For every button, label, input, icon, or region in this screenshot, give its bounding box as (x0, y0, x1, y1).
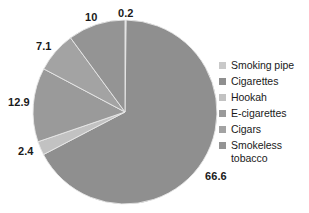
data-label-66-6: 66.6 (205, 170, 227, 182)
legend-item[interactable]: Hookah (219, 91, 309, 104)
data-label-10: 10 (85, 11, 97, 23)
pie-chart-figure: 0.2107.112.92.466.6 Smoking pipeCigarett… (0, 0, 309, 213)
legend-item-label: Smoking pipe (231, 59, 294, 72)
legend-item-label: Hookah (231, 91, 267, 104)
legend-swatch-icon (219, 78, 226, 85)
data-label-2-4: 2.4 (18, 145, 34, 157)
legend-swatch-icon (219, 126, 226, 133)
legend-swatch-icon (219, 62, 226, 69)
data-label-0-2: 0.2 (118, 7, 134, 19)
legend-item-label: Smokeless tobacco (231, 139, 282, 164)
legend-item[interactable]: Cigarettes (219, 75, 309, 88)
legend-item-label: E-cigarettes (231, 107, 286, 120)
legend-item[interactable]: E-cigarettes (219, 107, 309, 120)
legend-swatch-icon (219, 110, 226, 117)
legend-swatch-icon (219, 94, 226, 101)
chart-legend: Smoking pipeCigarettesHookahE-cigarettes… (219, 59, 309, 168)
legend-item[interactable]: Smoking pipe (219, 59, 309, 72)
legend-item[interactable]: Cigars (219, 123, 309, 136)
pie-slice-group (33, 20, 217, 204)
legend-swatch-icon (219, 142, 226, 149)
legend-item-label: Cigarettes (231, 75, 278, 88)
legend-item-label: Cigars (231, 123, 261, 136)
data-label-12-9: 12.9 (8, 96, 30, 108)
data-label-7-1: 7.1 (36, 40, 52, 52)
legend-item[interactable]: Smokeless tobacco (219, 139, 309, 164)
